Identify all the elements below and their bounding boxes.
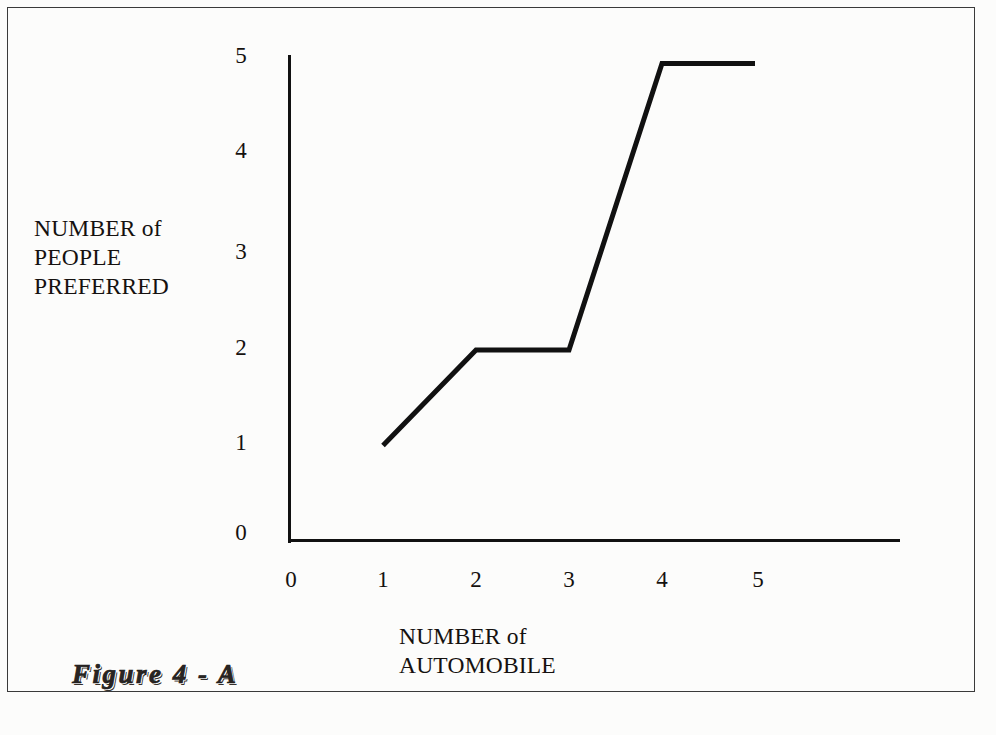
x-tick-label-0: 0: [271, 568, 311, 591]
figure-page: 5 4 3 2 1 0 0 1 2 3 4 5 NUMBER of PEOPLE…: [0, 0, 996, 735]
y-tick-label-0: 0: [221, 521, 261, 544]
y-tick-label-1: 1: [221, 431, 261, 454]
x-tick-label-5: 5: [738, 568, 778, 591]
x-tick-label-2: 2: [456, 568, 496, 591]
y-axis-line: [288, 55, 291, 543]
x-axis-title: NUMBER of AUTOMOBILE: [399, 622, 556, 680]
figure-caption: Figure 4 - A: [72, 659, 238, 690]
y-tick-label-5: 5: [221, 44, 261, 67]
y-tick-label-3: 3: [221, 240, 261, 263]
y-tick-label-4: 4: [221, 139, 261, 162]
x-tick-label-3: 3: [549, 568, 589, 591]
x-axis-line: [290, 539, 900, 542]
y-tick-label-2: 2: [221, 336, 261, 359]
y-axis-title: NUMBER of PEOPLE PREFERRED: [34, 214, 169, 301]
chart-plot-area: 5 4 3 2 1 0 0 1 2 3 4 5 NUMBER of PEOPLE…: [0, 0, 996, 735]
x-tick-label-1: 1: [363, 568, 403, 591]
x-tick-label-4: 4: [642, 568, 682, 591]
